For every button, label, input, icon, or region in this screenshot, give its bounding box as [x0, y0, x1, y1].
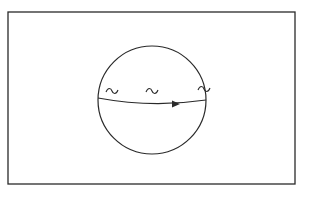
tilde-mark [146, 89, 158, 94]
diagram-canvas [0, 0, 309, 198]
diagram-frame [8, 12, 295, 184]
equator-chord [98, 98, 206, 104]
tilde-marks [106, 87, 210, 94]
arrowhead-icon [172, 101, 180, 108]
tilde-mark [106, 89, 118, 94]
